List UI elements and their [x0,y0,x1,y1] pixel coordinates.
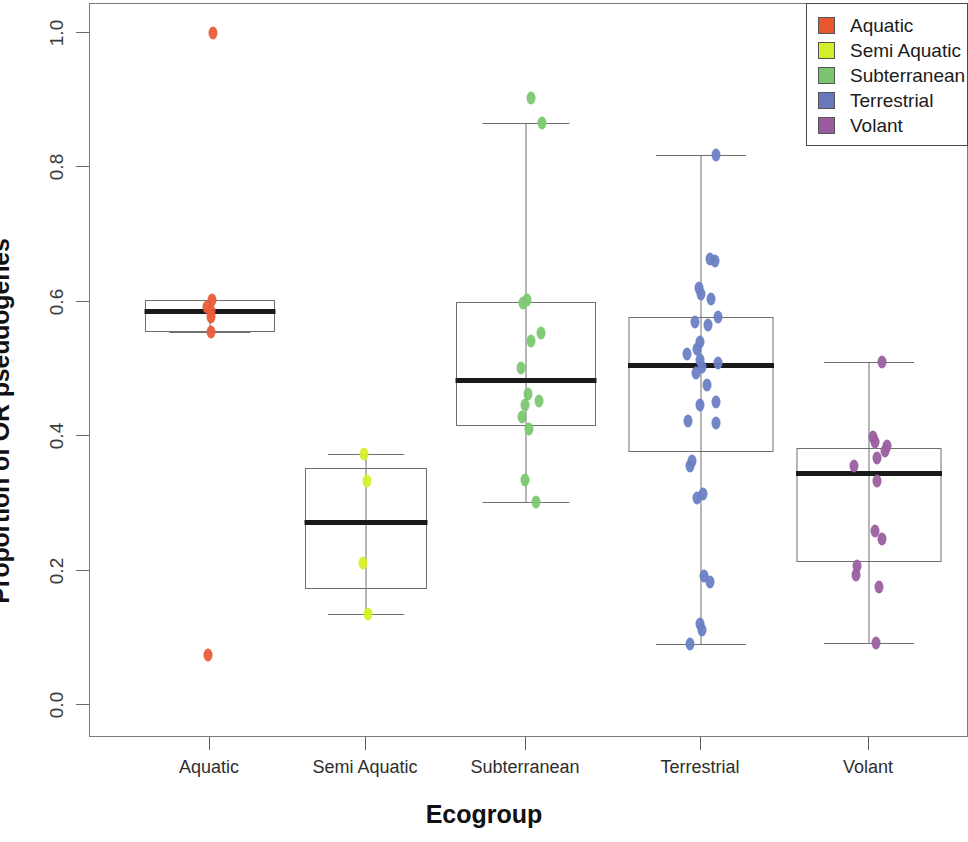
boxplot-box [797,448,942,562]
data-point [682,347,691,360]
data-point [880,444,889,457]
y-tick-mark [76,570,89,571]
y-tick-label: 0.8 [46,146,68,188]
x-tick-mark [868,737,869,750]
y-tick-label: 0.4 [46,415,68,457]
data-point [696,399,705,412]
data-point [206,326,215,339]
legend-swatch-icon [818,92,835,109]
data-point [877,533,886,546]
data-point [691,315,700,328]
y-tick-mark [76,704,89,705]
data-point [702,379,711,392]
data-point [712,395,721,408]
x-tick-label: Semi Aquatic [312,757,417,778]
data-point [711,254,720,267]
data-point [873,475,882,488]
data-point [703,318,712,331]
boxplot-whisker-cap [824,362,914,363]
boxplot-whisker-cap [656,155,746,156]
data-point [871,637,880,650]
data-point [851,568,860,581]
y-tick-label: 1.0 [46,12,68,54]
legend: AquaticSemi AquaticSubterraneanTerrestri… [806,3,968,146]
data-point [705,576,714,589]
x-tick-label: Aquatic [179,757,239,778]
y-tick-label: 0.6 [46,281,68,323]
legend-item-label: Volant [850,115,903,137]
data-point [363,474,372,487]
boxplot-whisker-cap [483,123,570,124]
data-point [692,492,701,505]
data-point [364,608,373,621]
data-point [714,356,723,369]
data-point [516,362,525,375]
y-tick-mark [76,301,89,302]
legend-item-label: Semi Aquatic [850,40,961,62]
data-point [532,496,541,509]
legend-item-label: Aquatic [850,15,913,37]
legend-item-semi-aquatic[interactable]: Semi Aquatic [818,38,967,63]
legend-item-label: Terrestrial [850,90,933,112]
data-point [706,293,715,306]
data-point [521,399,530,412]
y-axis-title: Proportion of OR pseudogenes [0,0,52,842]
data-point [206,310,215,323]
data-point [874,580,883,593]
x-tick-mark [700,737,701,750]
x-tick-label: Terrestrial [660,757,739,778]
data-point [697,288,706,301]
data-point [686,637,695,650]
x-tick-label: Volant [843,757,893,778]
boxplot-median-line [305,520,428,525]
boxplot-whisker-cap [656,644,746,645]
data-point [683,414,692,427]
data-point [521,473,530,486]
boxplot-median-line [796,471,942,476]
legend-item-label: Subterranean [850,65,965,87]
data-point [692,367,701,380]
data-point [850,459,859,472]
data-point [871,435,880,448]
legend-item-volant[interactable]: Volant [818,113,967,138]
data-point [526,334,535,347]
data-point [685,459,694,472]
data-point [537,117,546,130]
data-point [877,355,886,368]
x-tick-mark [209,737,210,750]
legend-swatch-icon [818,117,835,134]
data-point [697,623,706,636]
data-point [534,395,543,408]
boxplot-whisker-cap [824,643,914,644]
data-point [359,447,368,460]
data-point [203,648,212,661]
data-point [208,27,217,40]
legend-item-aquatic[interactable]: Aquatic [818,13,967,38]
y-tick-mark [76,435,89,436]
legend-swatch-icon [818,67,835,84]
boxplot-whisker-cap [483,502,570,503]
data-point [518,411,527,424]
data-point [713,310,722,323]
data-point [536,327,545,340]
x-tick-label: Subterranean [470,757,579,778]
y-tick-mark [76,32,89,33]
data-point [712,417,721,430]
x-tick-mark [365,737,366,750]
data-point [525,422,534,435]
data-point [712,149,721,162]
data-point [527,92,536,105]
legend-item-subterranean[interactable]: Subterranean [818,63,967,88]
data-point [518,297,527,310]
data-point [872,452,881,465]
y-tick-label: 0.0 [46,684,68,726]
legend-item-terrestrial[interactable]: Terrestrial [818,88,967,113]
legend-swatch-icon [818,17,835,34]
x-tick-mark [525,737,526,750]
y-tick-label: 0.2 [46,550,68,592]
boxplot-median-line [456,378,597,383]
legend-swatch-icon [818,42,835,59]
data-point [359,556,368,569]
x-axis-title: Ecogroup [89,800,879,829]
y-tick-mark [76,166,89,167]
